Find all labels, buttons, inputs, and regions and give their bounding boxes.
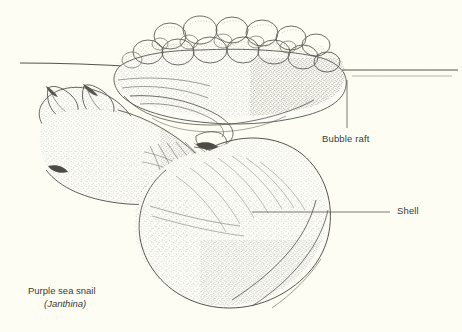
illustration-plate: Bubble raft Shell Purple sea snail (Jant… (0, 0, 462, 332)
caption-scientific-name: (Janthina) (44, 298, 96, 309)
label-shell: Shell (397, 205, 419, 217)
sea-snail-drawing (0, 0, 462, 332)
bubble-raft-group (112, 16, 352, 132)
label-bubble-raft: Bubble raft (322, 133, 370, 145)
caption-common-name: Purple sea snail (28, 285, 96, 296)
caption: Purple sea snail (Janthina) (28, 285, 96, 309)
